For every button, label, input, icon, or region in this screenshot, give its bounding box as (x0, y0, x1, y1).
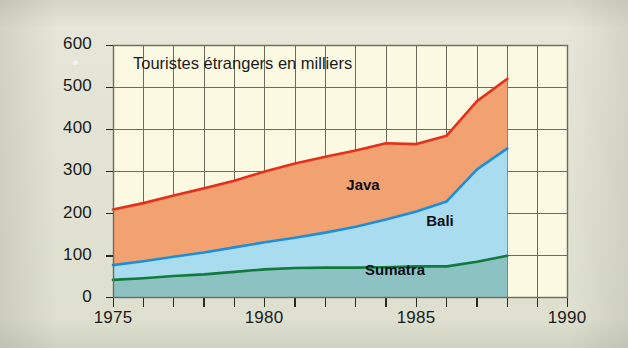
series-label-java: Java (346, 176, 379, 193)
x-tick-label-1985: 1985 (397, 308, 436, 328)
plot-title: Touristes étrangers en milliers (133, 54, 352, 73)
y-tick-label-400: 400 (34, 118, 92, 138)
x-tick-label-1975: 1975 (94, 308, 133, 328)
y-tick-label-500: 500 (34, 76, 92, 96)
x-tick-label-1990: 1990 (548, 308, 587, 328)
y-tick-label-100: 100 (34, 245, 92, 265)
x-tick-label-1980: 1980 (245, 308, 284, 328)
stacked-area-chart: Touristes étrangers en milliers Java Bal… (113, 45, 568, 298)
y-tick-label-300: 300 (34, 160, 92, 180)
series-label-sumatra: Sumatra (365, 261, 425, 278)
y-tick-label-600: 600 (34, 34, 92, 54)
y-tick-label-0: 0 (34, 287, 92, 307)
series-label-bali: Bali (426, 212, 454, 229)
y-tick-label-200: 200 (34, 203, 92, 223)
plot-frame (113, 45, 568, 298)
